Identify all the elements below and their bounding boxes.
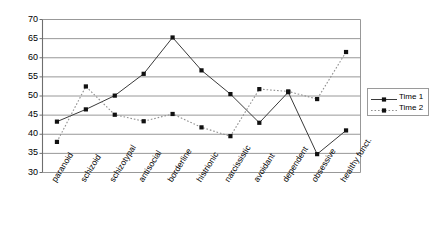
data-point-marker [199, 125, 203, 129]
data-point-marker [315, 97, 319, 101]
legend-label-1: Time 1 [398, 93, 423, 101]
legend-swatch-2 [370, 102, 398, 113]
data-point-marker [55, 140, 59, 144]
data-point-marker [170, 112, 174, 116]
y-axis-label-50: 50 [14, 91, 38, 100]
y-axis-label-65: 65 [14, 34, 38, 43]
data-point-marker [84, 84, 88, 88]
chart-plot-area [0, 0, 436, 242]
legend-marker-2 [382, 108, 386, 112]
data-point-marker [344, 50, 348, 54]
data-point-marker [142, 72, 146, 76]
y-axis-label-70: 70 [14, 15, 38, 24]
data-point-marker [84, 107, 88, 111]
legend-item-2: Time 2 [370, 102, 426, 113]
chart-legend: Time 1Time 2 [367, 88, 429, 116]
y-axis-label-45: 45 [14, 110, 38, 119]
data-point-marker [199, 68, 203, 72]
data-point-marker [142, 119, 146, 123]
y-axis-label-40: 40 [14, 129, 38, 138]
chart-container: 706560555045403530 paranoidschizoidschiz… [0, 0, 436, 242]
y-axis-label-60: 60 [14, 53, 38, 62]
data-point-marker [113, 94, 117, 98]
data-point-marker [286, 89, 290, 93]
legend-item-1: Time 1 [370, 91, 426, 102]
data-point-marker [315, 152, 319, 156]
legend-swatch-1 [370, 91, 398, 102]
data-point-marker [257, 121, 261, 125]
data-point-marker [344, 128, 348, 132]
data-point-marker [113, 113, 117, 117]
y-axis-label-30: 30 [14, 168, 38, 177]
data-point-marker [257, 87, 261, 91]
data-point-marker [55, 120, 59, 124]
legend-marker-1 [382, 97, 386, 101]
y-axis-label-35: 35 [14, 148, 38, 157]
data-point-marker [228, 134, 232, 138]
data-point-marker [228, 92, 232, 96]
data-point-marker [170, 35, 174, 39]
legend-label-2: Time 2 [398, 104, 423, 112]
y-axis-label-55: 55 [14, 72, 38, 81]
